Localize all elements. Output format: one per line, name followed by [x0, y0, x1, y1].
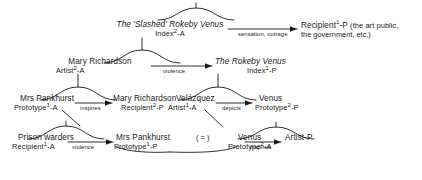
node-recipient-1-p: Recipient1-P (the art public, the govern…	[301, 21, 422, 39]
edge-label-depicts: depicts	[222, 105, 241, 111]
node-rokeby-venus: The Rokeby Venus Index1-P	[215, 57, 325, 75]
edge-label-violence-top: violence	[163, 68, 185, 74]
node-artist-p: Artist-P	[285, 133, 355, 142]
node-venus-prototype-2p: Venus Prototype2-P	[255, 94, 345, 112]
node-title: Venus	[255, 94, 345, 103]
arrow-depicts-head	[245, 100, 252, 105]
node-role: Index1-P	[215, 66, 325, 75]
node-title: Mrs Pankhurst	[114, 133, 200, 142]
arrow-sensation-outrage-head	[290, 26, 297, 31]
node-title: Velázquez	[168, 94, 238, 103]
node-title: The Rokeby Venus	[215, 57, 325, 66]
brace-row1	[158, 8, 234, 20]
node-role: Prototype2-P	[255, 103, 345, 112]
abduction-diagram: The 'Slashed' Rokeby Venus Index2-A sens…	[0, 0, 422, 180]
node-title: Artist-P	[285, 133, 355, 142]
arrow-violence-top-head	[205, 63, 212, 68]
node-mary-richardson-artist: Mary Richardson Artist2-A	[50, 57, 150, 75]
diagonal-pankhurst	[62, 110, 80, 126]
node-note: (the art public,	[350, 21, 398, 30]
node-title: Recipient1-P (the art public,	[301, 21, 422, 30]
equivalence-marker: ( = )	[196, 133, 209, 142]
diagonal-velazquez	[205, 110, 223, 127]
node-role: Index2-A	[110, 29, 230, 38]
node-title: The 'Slashed' Rokeby Venus	[110, 20, 230, 29]
node-title: Mrs Pankhurst	[14, 94, 94, 103]
node-title: Prison warders	[12, 133, 90, 142]
node-slashed-rokeby-venus: The 'Slashed' Rokeby Venus Index2-A	[110, 20, 230, 38]
node-note-second-line: the government, etc.)	[301, 30, 422, 39]
edge-label-inspires-mid: inspires	[80, 105, 101, 111]
node-role: Artist2-A	[50, 66, 150, 75]
edge-label-sensation-outrage: sensation, outrage	[238, 31, 288, 37]
edge-label-violence-bottom: violence	[72, 144, 94, 150]
arrow-violence-bottom-head	[106, 139, 113, 144]
edge-label-inspires-bottom: inspires	[250, 144, 271, 150]
node-title: Mary Richardson	[50, 57, 150, 66]
node-mrs-pankhurst-prototype-1p: Mrs Pankhurst Prototype1-P	[114, 133, 200, 151]
node-role: Prototype1-P	[114, 142, 200, 151]
arrow-inspires-mid-head	[105, 100, 112, 105]
